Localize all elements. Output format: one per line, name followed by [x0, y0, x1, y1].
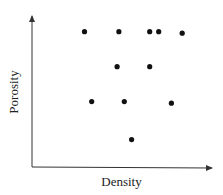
data-points: [82, 29, 185, 142]
data-point: [82, 29, 87, 34]
data-point: [180, 31, 185, 36]
data-point: [147, 29, 152, 34]
y-axis-label: Porosity: [6, 70, 22, 113]
scatter-plot: [0, 0, 223, 195]
x-axis: [32, 167, 212, 168]
data-point: [156, 29, 161, 34]
data-point: [89, 99, 94, 104]
data-point: [115, 64, 120, 69]
x-axis-label: Density: [0, 174, 223, 190]
data-point: [129, 137, 134, 142]
data-point: [147, 64, 152, 69]
data-point: [116, 29, 121, 34]
data-point: [122, 99, 127, 104]
data-point: [169, 101, 174, 106]
